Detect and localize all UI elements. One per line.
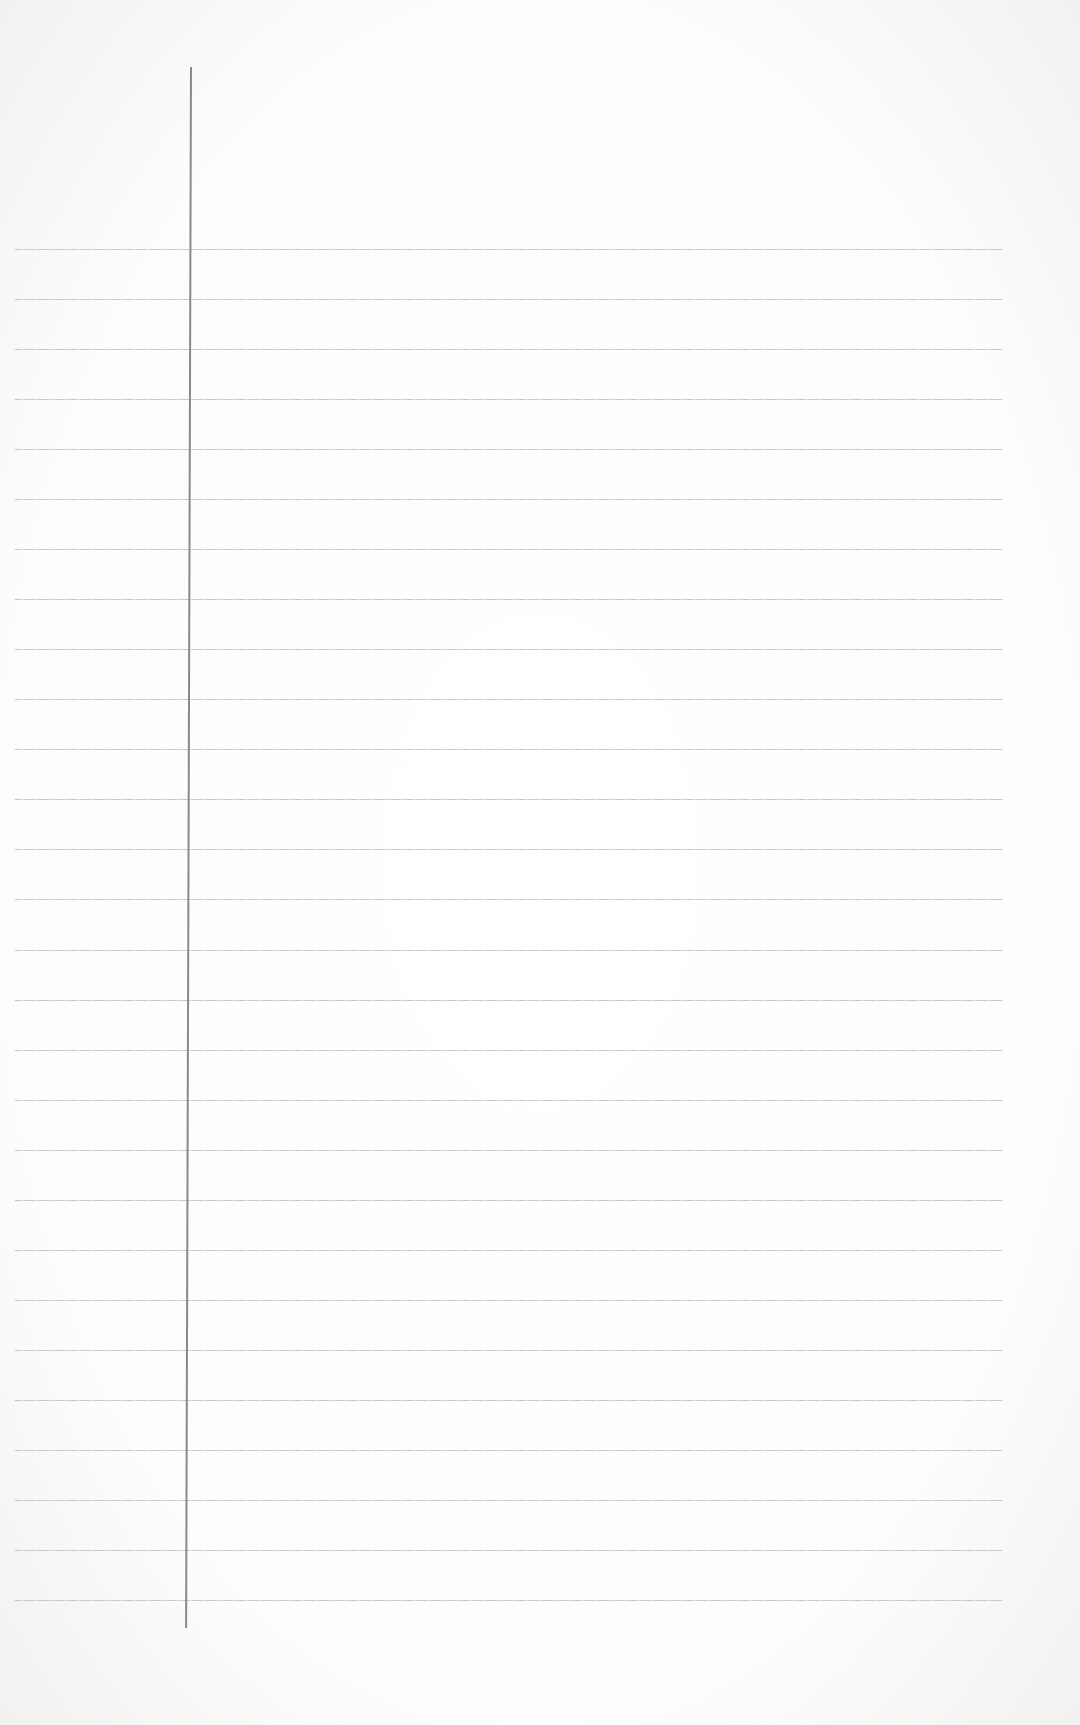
ruled-line [15,849,1003,850]
notebook-page [0,0,1080,1725]
ruled-line [15,1300,1003,1301]
ruled-line [15,249,1003,250]
ruled-line [15,649,1003,650]
ruled-line [15,499,1003,500]
ruled-line [15,399,1003,400]
ruled-line [15,1150,1003,1151]
ruled-line [15,1400,1003,1401]
ruled-line [15,1050,1003,1051]
ruled-line [15,1600,1003,1601]
ruled-line [15,1500,1003,1501]
ruled-line [15,699,1003,700]
ruled-line [15,349,1003,350]
ruled-line [15,749,1003,750]
ruled-line [15,1200,1003,1201]
ruled-line [15,899,1003,900]
ruled-line [15,449,1003,450]
ruled-line [15,599,1003,600]
ruled-line [15,299,1003,300]
ruled-line [15,549,1003,550]
ruled-line [15,1550,1003,1551]
ruled-line [15,950,1003,951]
ruled-line [15,1450,1003,1451]
margin-line [185,67,192,1628]
ruled-line [15,1350,1003,1351]
ruled-line [15,799,1003,800]
ruled-line [15,1000,1003,1001]
ruled-line [15,1250,1003,1251]
ruled-line [15,1100,1003,1101]
